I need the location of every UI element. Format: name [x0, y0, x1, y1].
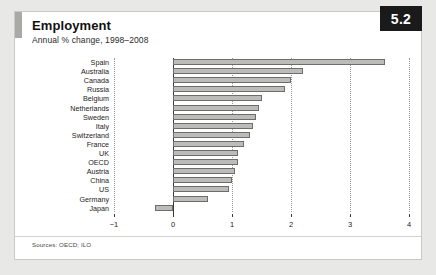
category-label: Russia [29, 85, 109, 94]
category-label: Spain [29, 58, 109, 67]
category-label: Italy [29, 122, 109, 131]
bar [173, 77, 291, 83]
category-label: China [29, 176, 109, 185]
sources-note: Sources: OECD; ILO [32, 241, 91, 248]
bar [173, 68, 303, 74]
category-label: Netherlands [29, 104, 109, 113]
sources-divider [15, 236, 421, 237]
bar-row [114, 140, 409, 149]
bar-row [114, 195, 409, 204]
bar [173, 59, 385, 65]
bar [173, 86, 285, 92]
bar [155, 205, 173, 211]
tick-mark [409, 214, 410, 217]
category-label: Austria [29, 167, 109, 176]
bar [173, 159, 238, 165]
category-label: Switzerland [29, 131, 109, 140]
bar-row [114, 113, 409, 122]
tick-label: 3 [348, 220, 352, 229]
bar [173, 95, 262, 101]
category-label: Germany [29, 195, 109, 204]
category-label: UK [29, 149, 109, 158]
bar-row [114, 94, 409, 103]
bar [173, 196, 208, 202]
category-label: US [29, 185, 109, 194]
tick-mark [114, 214, 115, 217]
bar-row [114, 85, 409, 94]
tick-label: 4 [407, 220, 411, 229]
category-label: Australia [29, 67, 109, 76]
bar-row [114, 185, 409, 194]
tick-label: −1 [110, 220, 119, 229]
tick-label: 2 [289, 220, 293, 229]
bar [173, 141, 244, 147]
bar [173, 114, 256, 120]
figure-number-badge: 5.2 [380, 6, 422, 31]
tick-mark [350, 214, 351, 217]
plot-area: SpainAustraliaCanadaRussiaBelgiumNetherl… [15, 58, 423, 233]
chart-figure-panel: 5.2 Employment Annual % change, 1998–200… [14, 11, 422, 260]
bar [173, 132, 250, 138]
accent-block [15, 12, 22, 38]
bar [173, 186, 229, 192]
tick-label: 1 [230, 220, 234, 229]
category-label: France [29, 140, 109, 149]
bar-row [114, 58, 409, 67]
chart-title: Employment [32, 18, 111, 33]
gridline-4 [409, 58, 410, 212]
bar-row [114, 67, 409, 76]
bar-row [114, 76, 409, 85]
bar [173, 123, 253, 129]
tick-label: 0 [171, 220, 175, 229]
bar-row [114, 176, 409, 185]
bar [173, 150, 238, 156]
bar-row [114, 204, 409, 213]
bar [173, 177, 232, 183]
bar-row [114, 167, 409, 176]
category-label: Sweden [29, 113, 109, 122]
category-label: Japan [29, 204, 109, 213]
bar [173, 168, 235, 174]
bars-container [114, 58, 409, 213]
tick-mark [173, 214, 174, 217]
category-label: Belgium [29, 94, 109, 103]
chart-subtitle: Annual % change, 1998–2008 [32, 35, 149, 45]
category-label: Canada [29, 76, 109, 85]
bar-row [114, 158, 409, 167]
bar-row [114, 149, 409, 158]
tick-mark [232, 214, 233, 217]
bar-row [114, 122, 409, 131]
tick-mark [291, 214, 292, 217]
category-label: OECD [29, 158, 109, 167]
bar-row [114, 104, 409, 113]
bar [173, 105, 259, 111]
bar-row [114, 131, 409, 140]
value-axis-ticks: −101234 [114, 216, 409, 232]
